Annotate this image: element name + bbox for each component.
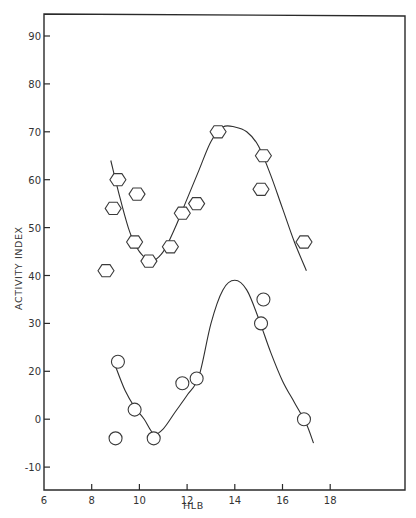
x-tick-label: 18 — [324, 495, 337, 506]
circle-point — [147, 432, 160, 445]
hexagon-point — [129, 188, 145, 200]
hexagon-point — [253, 183, 269, 195]
y-axis: 90807060504030200-10 — [25, 31, 50, 473]
y-tick-label: 80 — [28, 79, 41, 90]
circle-point — [109, 432, 122, 445]
circle-point — [190, 372, 203, 385]
y-tick-label: 0 — [35, 414, 41, 425]
y-tick-label: 70 — [28, 127, 41, 138]
hexagon-point — [174, 207, 190, 219]
y-tick-label: -10 — [25, 462, 41, 473]
hexagon-point — [110, 174, 126, 186]
plot-border — [44, 14, 405, 490]
circle-point — [257, 293, 270, 306]
x-tick-label: 6 — [41, 495, 47, 506]
x-tick-label: 8 — [89, 495, 95, 506]
circle-point — [111, 355, 124, 368]
chart: 681012141618 90807060504030200-10 HLB AC… — [0, 0, 416, 518]
x-tick-label: 14 — [228, 495, 241, 506]
y-tick-label: 40 — [28, 271, 41, 282]
hexagon-point — [105, 202, 121, 214]
hexagon-point — [162, 241, 178, 253]
plot-frame — [44, 14, 405, 490]
circle-point — [297, 413, 310, 426]
circle-point — [176, 377, 189, 390]
y-tick-label: 20 — [28, 366, 41, 377]
circle-point — [255, 317, 268, 330]
hexagon-point — [296, 236, 312, 248]
hexagon-point — [210, 126, 226, 138]
data-points — [98, 126, 312, 445]
hexagon-point — [127, 236, 143, 248]
y-tick-label: 60 — [28, 175, 41, 186]
circle-series-fit-curve — [116, 280, 314, 443]
hexagon-point — [255, 150, 271, 162]
y-tick-label: 30 — [28, 318, 41, 329]
x-axis-title: HLB — [183, 500, 204, 511]
hexagon-point — [141, 255, 157, 267]
y-tick-label: 90 — [28, 31, 41, 42]
y-tick-label: 50 — [28, 223, 41, 234]
circle-point — [128, 403, 141, 416]
hexagon-point — [189, 198, 205, 210]
fit-curves — [111, 126, 314, 443]
x-tick-label: 10 — [133, 495, 146, 506]
y-axis-title: ACTIVITY INDEX — [13, 226, 24, 310]
x-tick-label: 16 — [276, 495, 289, 506]
hexagon-point — [98, 265, 114, 277]
